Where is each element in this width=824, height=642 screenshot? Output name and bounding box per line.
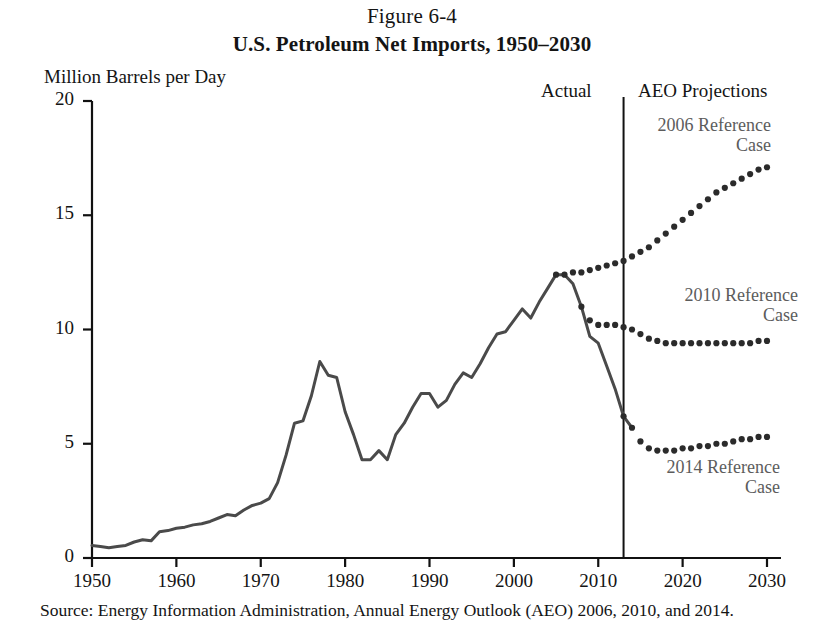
series-dots-2014-reference-case <box>620 413 770 453</box>
x-tick-label: 1990 <box>390 570 470 592</box>
projection-dot <box>688 210 694 216</box>
series-line-actual <box>92 275 632 548</box>
projection-dot <box>587 317 593 323</box>
projection-dot <box>730 340 736 346</box>
x-tick-label: 1960 <box>136 570 216 592</box>
projection-dot <box>629 425 635 431</box>
annotation-2006-reference-case: 2006 Reference Case <box>603 115 771 155</box>
projection-dot <box>646 336 652 342</box>
projection-dot <box>620 324 626 330</box>
projection-dot <box>755 338 761 344</box>
projection-dot <box>696 340 702 346</box>
projection-dot <box>637 249 643 255</box>
projection-dot <box>696 443 702 449</box>
projection-dot <box>646 244 652 250</box>
projection-dot <box>620 258 626 264</box>
annotation-2010-reference-case: 2010 Reference Case <box>630 285 798 325</box>
x-tick-label: 2000 <box>474 570 554 592</box>
y-tick-label: 20 <box>34 88 74 110</box>
projection-dot <box>604 322 610 328</box>
projection-dot <box>730 180 736 186</box>
x-tick-label: 2030 <box>727 570 807 592</box>
projection-dot <box>595 265 601 271</box>
projection-dot <box>561 272 567 278</box>
projection-dot <box>595 322 601 328</box>
projection-dot <box>629 326 635 332</box>
projection-dot <box>654 237 660 243</box>
projection-dot <box>764 164 770 170</box>
projection-dot <box>646 445 652 451</box>
projection-dot <box>764 434 770 440</box>
projection-dot <box>629 253 635 259</box>
projection-dot <box>604 262 610 268</box>
y-tick-label: 10 <box>34 317 74 339</box>
projection-dot <box>612 260 618 266</box>
projection-dot <box>755 434 761 440</box>
x-tick-label: 1980 <box>305 570 385 592</box>
y-tick-label: 15 <box>34 202 74 224</box>
projection-dot <box>680 445 686 451</box>
projection-dot <box>696 203 702 209</box>
projection-dot <box>722 441 728 447</box>
projection-dot <box>739 340 745 346</box>
projection-dot <box>688 445 694 451</box>
projection-dot <box>722 185 728 191</box>
projection-dot <box>705 340 711 346</box>
projection-dot <box>570 269 576 275</box>
projection-dot <box>713 189 719 195</box>
projection-dot <box>553 272 559 278</box>
projection-dot <box>688 340 694 346</box>
projection-dot <box>637 438 643 444</box>
projection-dot <box>671 224 677 230</box>
projection-dot <box>578 269 584 275</box>
x-tick-label: 1950 <box>52 570 132 592</box>
y-tick-label: 0 <box>34 545 74 567</box>
projection-dot <box>663 448 669 454</box>
annotation-2014-reference-case: 2014 Reference Case <box>612 457 780 497</box>
projection-dot <box>663 340 669 346</box>
x-tick-label: 2010 <box>558 570 638 592</box>
projection-dot <box>637 331 643 337</box>
projection-dot <box>713 441 719 447</box>
projection-dot <box>671 448 677 454</box>
projection-dot <box>739 176 745 182</box>
projection-dot <box>705 443 711 449</box>
projection-dot <box>680 217 686 223</box>
projection-dot <box>620 413 626 419</box>
projection-dot <box>612 322 618 328</box>
projection-dot <box>713 340 719 346</box>
projection-dot <box>587 267 593 273</box>
projection-dot <box>680 340 686 346</box>
projection-dot <box>671 340 677 346</box>
projection-dot <box>654 448 660 454</box>
projection-dot <box>654 338 660 344</box>
projection-dot <box>705 196 711 202</box>
projection-dot <box>663 230 669 236</box>
projection-dot <box>764 338 770 344</box>
projection-dot <box>739 436 745 442</box>
projection-dot <box>722 340 728 346</box>
figure-container: Figure 6-4 U.S. Petroleum Net Imports, 1… <box>0 0 824 642</box>
projection-dot <box>755 166 761 172</box>
x-tick-label: 2020 <box>643 570 723 592</box>
x-tick-label: 1970 <box>221 570 301 592</box>
projection-dot <box>730 438 736 444</box>
series-dots-2006-reference-case <box>553 164 770 278</box>
source-note: Source: Energy Information Administratio… <box>40 600 734 621</box>
projection-dot <box>578 304 584 310</box>
projection-dot <box>747 171 753 177</box>
projection-dot <box>747 340 753 346</box>
projection-dot <box>747 436 753 442</box>
y-tick-label: 5 <box>34 431 74 453</box>
